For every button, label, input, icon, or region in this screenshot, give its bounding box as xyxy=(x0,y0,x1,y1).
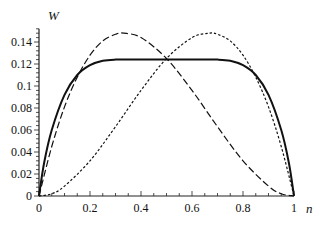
y-tick-label: 0.06 xyxy=(11,123,32,137)
series-dotted-line xyxy=(39,33,294,196)
y-axis-label: W xyxy=(48,8,60,23)
x-tick-label: 0.2 xyxy=(83,201,98,215)
x-tick-label: 1 xyxy=(291,201,297,215)
y-tick-label: 0.04 xyxy=(11,145,32,159)
series-solid-line xyxy=(39,60,294,196)
y-tick-label: 0.14 xyxy=(11,35,32,49)
y-tick-label: 0.12 xyxy=(11,57,32,71)
y-tick-label: 0.1 xyxy=(17,79,32,93)
x-tick-label: 0.6 xyxy=(185,201,200,215)
y-tick-label: 0.02 xyxy=(11,167,32,181)
y-tick-label: 0 xyxy=(26,189,32,203)
x-axis-label: n xyxy=(306,201,313,216)
chart-canvas: 00.020.040.060.080.10.120.1400.20.40.60.… xyxy=(0,0,323,227)
x-tick-label: 0.8 xyxy=(236,201,251,215)
x-tick-label: 0.4 xyxy=(134,201,149,215)
chart: 00.020.040.060.080.10.120.1400.20.40.60.… xyxy=(0,0,323,227)
y-tick-label: 0.08 xyxy=(11,101,32,115)
x-tick-label: 0 xyxy=(36,201,42,215)
plot-area xyxy=(39,33,294,196)
series-dashed-line xyxy=(39,33,294,196)
